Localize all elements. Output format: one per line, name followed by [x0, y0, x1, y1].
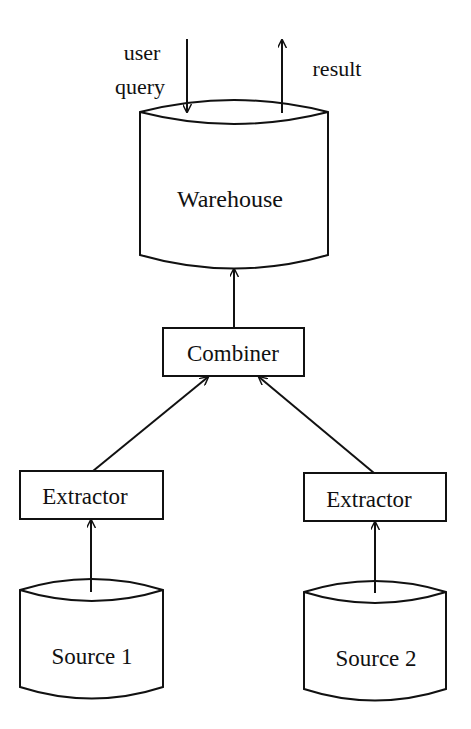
source-2-node: Source 2 [304, 581, 446, 701]
source-1-cylinder-shape [20, 579, 163, 699]
source-1-node: Source 1 [20, 579, 163, 699]
extractor-2-label: Extractor [326, 487, 412, 512]
source-2-cylinder-shape [304, 581, 446, 701]
warehouse-label: Warehouse [177, 186, 283, 212]
extractor-1-node: Extractor [20, 471, 163, 519]
user-query-label-line2: query [115, 74, 165, 99]
extractor2-to-combiner-arrow [259, 377, 374, 473]
source-2-rim [304, 592, 446, 603]
source-2-label: Source 2 [335, 646, 416, 671]
extractor1-to-combiner-arrow [93, 377, 208, 471]
extractor-2-node: Extractor [304, 473, 446, 521]
extractor-1-label: Extractor [42, 484, 128, 509]
warehouse-rim [140, 112, 328, 124]
combiner-label: Combiner [187, 341, 279, 366]
combiner-node: Combiner [163, 328, 304, 376]
warehouse-node: Warehouse [140, 100, 328, 269]
diagram-canvas: Warehouse user query result Combiner Ext… [0, 0, 471, 729]
warehouse-cylinder-shape [140, 100, 328, 269]
user-query-label-line1: user [124, 40, 161, 65]
result-label: result [313, 56, 362, 81]
source-1-label: Source 1 [51, 644, 132, 669]
